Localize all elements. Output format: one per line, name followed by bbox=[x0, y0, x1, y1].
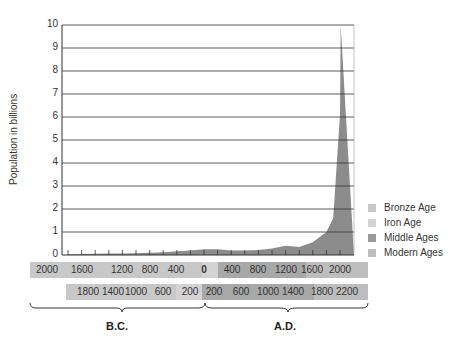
era-bc-label: B.C. bbox=[106, 320, 128, 332]
legend-label: Middle Ages bbox=[384, 232, 438, 243]
legend-swatch-icon bbox=[368, 249, 376, 257]
ad-brace bbox=[205, 303, 368, 312]
legend-label: Bronze Age bbox=[384, 202, 436, 213]
legend: Bronze AgeIron AgeMiddle AgesModern Ages bbox=[368, 200, 443, 260]
legend-item: Middle Ages bbox=[368, 230, 443, 245]
era-ad-label: A.D. bbox=[274, 320, 296, 332]
legend-item: Modern Ages bbox=[368, 245, 443, 260]
legend-swatch-icon bbox=[368, 219, 376, 227]
legend-label: Modern Ages bbox=[384, 247, 443, 258]
era-braces bbox=[0, 0, 456, 341]
legend-item: Iron Age bbox=[368, 215, 443, 230]
legend-label: Iron Age bbox=[384, 217, 421, 228]
bc-brace bbox=[30, 303, 205, 312]
legend-swatch-icon bbox=[368, 204, 376, 212]
legend-swatch-icon bbox=[368, 234, 376, 242]
legend-item: Bronze Age bbox=[368, 200, 443, 215]
